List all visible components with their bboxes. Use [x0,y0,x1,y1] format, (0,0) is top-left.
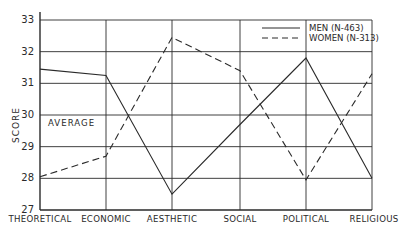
legend-men-label: MEN (N-463) [309,23,364,33]
legend: MEN (N-463) WOMEN (N-313) [262,23,379,43]
y-tick-label: 29 [21,141,34,152]
y-tick-label: 31 [21,77,34,88]
x-axis-categories: THEORETICALECONOMICAESTHETICSOCIALPOLITI… [7,214,398,224]
y-tick-label: 28 [21,172,34,183]
x-category-label: ECONOMIC [81,214,131,224]
y-axis-label: SCORE [11,107,21,143]
y-axis-ticks: 27282930313233 [21,14,34,215]
x-category-label: RELIGIOUS [349,214,398,224]
series-line-women [40,37,372,180]
average-annotation: AVERAGE [48,118,95,128]
data-series [40,37,372,194]
legend-women-label: WOMEN (N-313) [309,33,379,43]
y-tick-label: 33 [21,14,34,25]
y-tick-label: 32 [21,46,34,57]
x-category-label: SOCIAL [223,214,256,224]
x-category-label: THEORETICAL [7,214,71,224]
x-category-label: AESTHETIC [147,214,197,224]
y-tick-label: 30 [21,109,34,120]
x-category-label: POLITICAL [283,214,329,224]
line-chart: 27282930313233 THEORETICALECONOMICAESTHE… [0,0,408,236]
